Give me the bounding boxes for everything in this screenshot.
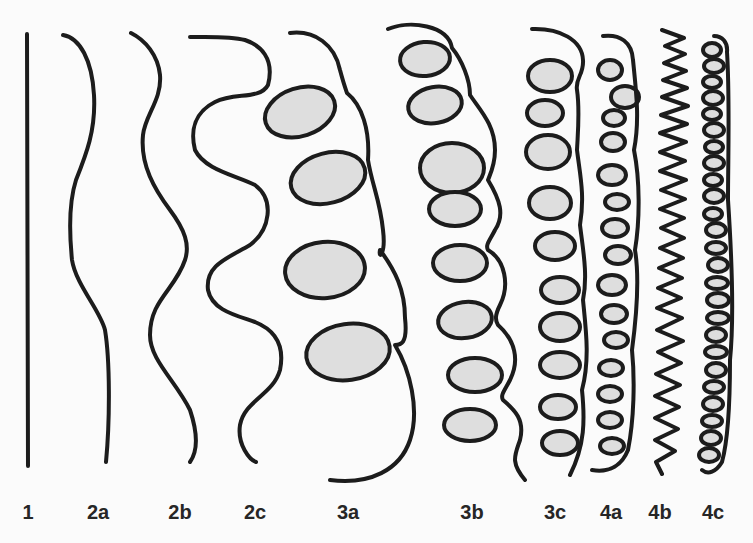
- curve-3c: [526, 29, 587, 475]
- coil-type-diagram: 1 2a 2b 2c 3a 3b 3c 4a 4b 4c: [0, 0, 753, 543]
- curve-2b: [131, 33, 196, 462]
- label-2c: 2c: [244, 500, 266, 524]
- curve-2a: [63, 35, 109, 462]
- label-4b: 4b: [648, 500, 671, 524]
- label-4c: 4c: [702, 500, 724, 524]
- label-2a: 2a: [87, 500, 109, 524]
- curve-2c: [190, 37, 281, 462]
- curve-1: [27, 34, 28, 466]
- curves-canvas: [0, 0, 753, 543]
- curve-4b: [655, 30, 688, 474]
- label-3a: 3a: [337, 500, 359, 524]
- curve-3b: [388, 25, 525, 480]
- label-2b: 2b: [168, 500, 191, 524]
- curve-3a: [258, 33, 414, 481]
- label-3c: 3c: [544, 500, 566, 524]
- label-4a: 4a: [600, 500, 622, 524]
- label-3b: 3b: [460, 500, 483, 524]
- curve-4c: [699, 36, 732, 472]
- label-1: 1: [22, 500, 33, 524]
- curve-4a: [592, 36, 639, 471]
